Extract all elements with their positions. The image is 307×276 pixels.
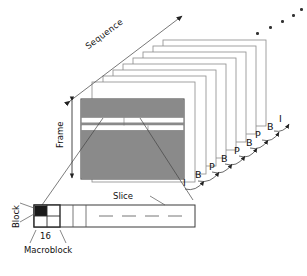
slice-strip [34,205,195,227]
ellipsis-dot-1 [269,26,272,29]
front-frame-band-white-1 [82,118,184,123]
gop-frame-type-3: B [221,154,228,164]
ellipsis-dot-3 [292,14,295,17]
ellipsis-dot-4 [300,8,303,11]
label-slice: Slice [113,192,133,201]
block-cell-filled [35,206,47,216]
label-size-16: 16 [40,232,51,241]
front-frame-band-gray-main [82,131,184,179]
ellipsis-dot-2 [281,20,284,23]
label-frame: Frame [56,122,65,148]
front-frame-band-gray-thin [82,123,184,126]
front-frame-band-gray-top [82,100,184,118]
figure-root: Sequence Frame Slice Block 16 Macroblock… [0,0,307,276]
gop-frame-type-6: P [255,130,261,140]
ellipsis-dot-0 [256,32,259,35]
gop-frame-type-8: I [279,114,282,124]
front-frame [81,99,184,179]
gop-frame-type-5: B [246,138,253,148]
gop-frame-type-7: B [267,122,274,132]
gop-frame-type-0: I [183,178,186,188]
label-block: Block [12,205,21,228]
gop-frame-type-4: P [234,146,240,156]
gop-frame-type-1: B [195,170,202,180]
label-macroblock: Macroblock [24,246,72,255]
gop-frame-type-2: P [209,162,215,172]
